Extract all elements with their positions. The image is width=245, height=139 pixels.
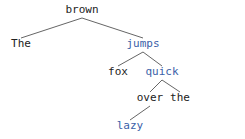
tree-svg: brownThejumpsfoxquickoverthelazy — [0, 0, 245, 139]
edge-jumps-quick — [143, 52, 162, 66]
edge-over-lazy — [130, 106, 150, 120]
node-jumps: jumps — [126, 37, 159, 50]
node-fox: fox — [108, 65, 128, 78]
node-quick: quick — [145, 65, 178, 78]
node-lazy: lazy — [117, 119, 144, 132]
node-over: over — [137, 91, 164, 104]
edge-brown-the1 — [21, 18, 82, 38]
edge-jumps-fox — [118, 52, 143, 66]
tree-diagram: brownThejumpsfoxquickoverthelazy — [0, 0, 245, 139]
node-the1: The — [11, 37, 31, 50]
node-the2: the — [170, 91, 190, 104]
edge-brown-jumps — [82, 18, 143, 38]
node-brown: brown — [65, 3, 98, 16]
